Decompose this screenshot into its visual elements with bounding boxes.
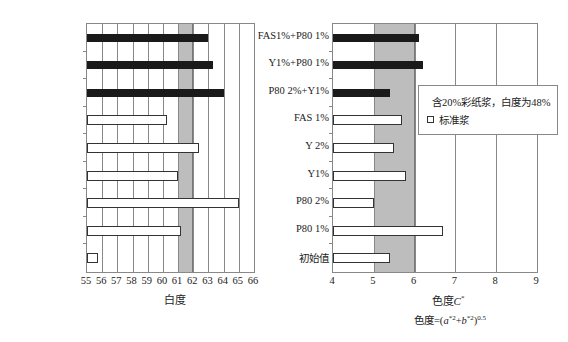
chroma-gridline [455,24,456,272]
hollow-square-icon [427,116,434,123]
chroma-y-tick [329,133,332,134]
chroma-y-tick [329,106,332,107]
legend: 含20%彩纸浆，白度为48% 标准浆 [418,85,558,135]
chroma-y-tick [329,243,332,244]
chroma-gridline [496,24,497,272]
chroma-bar [333,171,406,181]
chroma-bar [333,198,374,208]
chroma-category-label: P80 2%+Y1% [269,85,329,96]
chroma-category-label: FAS1%+P80 1% [258,30,329,41]
chroma-category-label: Y1%+P80 1% [269,57,329,68]
chroma-category-label: FAS 1% [294,112,329,123]
chroma-y-tick [329,216,332,217]
chroma-category-label: P80 1% [296,223,329,234]
chroma-y-tick [329,188,332,189]
chroma-bar [333,34,419,42]
chroma-plot-area [332,23,538,273]
legend-item-colored-pulp: 含20%彩纸浆，白度为48% [427,92,549,110]
chroma-formula: 色度=(a*2+b*2)0.5 [385,312,515,327]
chroma-x-tick-label: 6 [404,275,424,286]
chroma-chart: FAS1%+P80 1%Y1%+P80 1%P80 2%+Y1%FAS 1%Y … [0,0,568,342]
chroma-x-tick-label: 5 [363,275,383,286]
chroma-category-label: P80 2% [296,195,329,206]
chroma-category-label: 初始值 [299,250,329,265]
chroma-bar [333,226,443,236]
chroma-y-tick [329,51,332,52]
chroma-bar [333,115,402,125]
chroma-category-label: Y1% [307,168,329,179]
chroma-y-tick [329,78,332,79]
chroma-x-tick-label: 8 [485,275,505,286]
chroma-bar [333,89,390,97]
chroma-x-tick-label: 9 [526,275,546,286]
chroma-axis-title: 色度C* [408,292,488,308]
chroma-bar [333,143,394,153]
chroma-bar [333,253,390,263]
chroma-x-tick-label: 4 [322,275,342,286]
chroma-x-tick-label: 7 [444,275,464,286]
chroma-category-label: Y 2% [305,140,329,151]
legend-item-standard-pulp: 标准浆 [427,110,549,128]
chroma-bar [333,61,423,69]
chroma-y-tick [329,161,332,162]
